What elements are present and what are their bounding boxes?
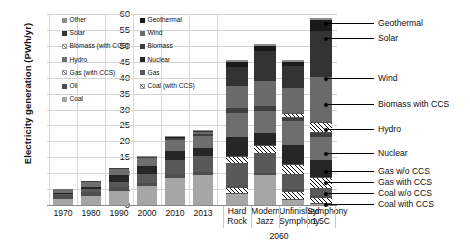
legend-item[interactable]: Wind [140,29,163,37]
bar-segment-coal [193,175,213,205]
bar-segment-coal [81,196,101,205]
bar-segment-oil [53,195,73,199]
bar-segment-geothermal [254,46,276,51]
annotation-leader-line [328,153,374,154]
bar-unfinished-symphony[interactable] [282,14,304,205]
legend-item[interactable]: Geothermal [140,16,182,24]
annotation-leader-line [328,204,374,205]
x-axis-tick-label: 2000 [133,208,161,218]
legend-item[interactable]: Gas [140,69,160,77]
bar-segment-oil [310,196,332,197]
y-axis-title: Electricity generation (PWh/yr) [22,4,33,184]
bar-segment-hydro [282,121,304,145]
legend-item[interactable]: Biomass [140,42,173,50]
legend-swatch-icon [62,57,67,62]
bar-segment-other [282,60,304,62]
legend-item[interactable]: Gas (with CCS) [62,69,115,77]
legend-item[interactable]: Other [62,16,86,24]
bar-segment-biomass [137,157,157,158]
bar-segment-wind [254,81,276,106]
annotation-label: Wind [378,73,398,83]
x-axis-tick-label: 1970 [49,208,77,218]
legend-swatch-icon [140,44,145,49]
legend-swatch-icon [62,18,67,23]
legend-item[interactable]: Biomass (with CCS) [62,42,129,50]
scenario-separator [223,206,224,228]
bar-segment-hydro [109,168,129,175]
bar-segment-other [254,44,276,46]
bar-segment-solar [254,51,276,81]
bar-segment-oil [282,189,304,190]
bar-segment-nuclear [193,148,213,156]
scenario-separator [307,206,308,228]
legend-item[interactable]: Coal [62,95,83,103]
bar-segment-gas [193,156,213,172]
bar-segment-coal [137,186,157,205]
x-axis-tick-label: Unfinished Symphony [279,206,307,226]
bar-segment-nuclear [254,133,276,144]
legend-label: Other [70,16,87,23]
bar-segment-gas [53,193,73,195]
bar-segment-wind [282,88,304,113]
annotation-leader-line [328,38,374,39]
bar-segment-biomass [109,168,129,169]
bar-segment-hydro [193,136,213,148]
annotation-label: Hydro [378,124,401,134]
legend-item[interactable]: Solar [62,29,85,37]
bar-segment-biomass [193,134,213,136]
legend-swatch-icon [140,84,145,89]
bar-segment-gas-with-ccs- [226,156,248,164]
bar-segment-wind [193,131,213,133]
bar-segment-wind [310,77,332,122]
annotation-leader-line [328,23,374,24]
annotation-leader-line [328,193,374,194]
legend-item[interactable]: Hydro [62,56,87,64]
annotation-marker-dot [324,192,328,196]
legend-label: Gas (with CCS) [70,69,116,76]
bar-segment-biomass [165,138,185,140]
legend-item[interactable]: Oil [62,82,78,90]
bar-segment-gas [254,152,276,173]
legend-label: Biomass (with CCS) [70,42,129,49]
scenario-separator [251,206,252,228]
annotation-label: Biomass with CCS [378,99,449,109]
bar-segment-coal-with-ccs- [282,191,304,200]
bar-segment-hydro [254,111,276,133]
annotation-marker-dot [324,22,328,26]
legend-swatch-icon [62,84,67,89]
legend-item[interactable]: Nuclear [140,56,170,64]
legend-label: Coal (with CCS) [148,82,195,89]
legend-swatch-icon [62,44,67,49]
bar-segment-wind [226,86,248,108]
bar-segment-biomass [254,106,276,111]
bar-segment-gas [226,162,248,186]
legend-item[interactable]: Coal (with CCS) [140,82,195,90]
annotation-marker-dot [324,170,328,174]
annotation-leader-line [328,104,374,105]
bar-segment-coal [254,175,276,205]
x-axis-tick-label: 1990 [105,208,133,218]
bar-symphony-1-5c[interactable] [310,14,332,205]
annotation-marker-dot [324,152,328,156]
bar-modern-jazz[interactable] [254,14,276,205]
annotation-marker-dot [324,181,328,185]
bar-segment-gas-with-ccs- [254,145,276,155]
legend-label: Gas [148,69,160,76]
annotation-leader-line [328,129,374,130]
x-axis-tick-label: 2013 [189,208,217,218]
bar-segment-hydro [137,158,157,167]
bar-segment-nuclear [109,175,129,181]
x-axis-tick-label: 1980 [77,208,105,218]
bar-hard-rock[interactable] [226,14,248,205]
x-axis-tick-label: Hard Rock [223,206,251,226]
bar-segment-gas [282,173,304,189]
bar-segment-oil [193,172,213,175]
legend-label: Oil [70,82,78,89]
legend-swatch-icon [62,97,67,102]
category-separator [217,14,218,205]
legend-swatch-icon [140,31,145,36]
bar-segment-biomass-with-ccs- [282,113,304,118]
annotation-label: Geothermal [378,18,423,28]
category-separator [49,14,50,205]
bar-segment-nuclear [165,151,185,160]
